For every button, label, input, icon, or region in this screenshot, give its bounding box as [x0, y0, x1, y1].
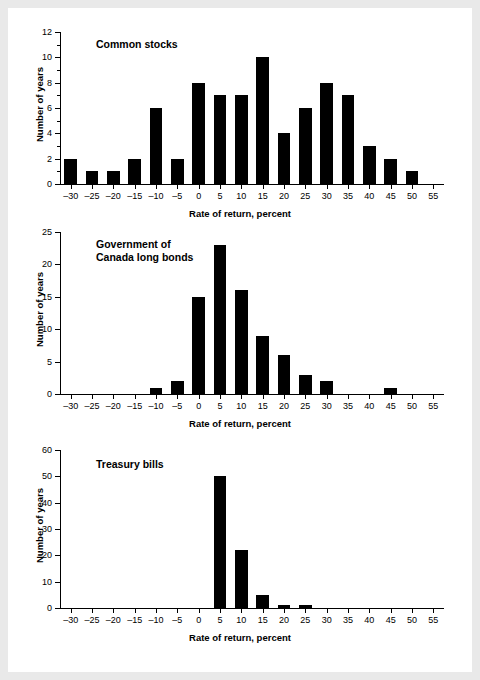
histogram-bar — [214, 95, 226, 184]
x-axis-tick — [241, 185, 242, 189]
x-axis-tick — [135, 185, 136, 189]
histogram-bar — [384, 388, 396, 394]
y-axis-minor-tick — [57, 45, 60, 46]
y-axis-minor-tick — [57, 70, 60, 71]
y-axis-tick-label: 10 — [28, 53, 52, 62]
y-axis-tick — [55, 297, 60, 298]
y-axis-tick — [55, 57, 60, 58]
histogram-bar — [320, 381, 332, 394]
histogram-bar — [214, 476, 226, 608]
x-axis-tick — [199, 185, 200, 189]
x-axis-tick — [327, 185, 328, 189]
histogram-bar — [235, 550, 247, 608]
y-axis-tick — [55, 362, 60, 363]
plot-area-common-stocks: –30–25–20–15–10–505101520253035404550550… — [60, 32, 444, 184]
histogram-bar — [384, 159, 396, 184]
y-axis-tick — [55, 184, 60, 185]
histogram-bar — [171, 159, 183, 184]
x-axis-tick — [177, 395, 178, 399]
y-axis-tick-label: 12 — [28, 28, 52, 37]
x-axis-tick — [412, 609, 413, 613]
y-axis-title: Number of years — [34, 67, 45, 142]
x-axis-tick — [113, 609, 114, 613]
x-axis-title: Rate of return, percent — [8, 632, 472, 643]
plot-area-treasury-bills: –30–25–20–15–10–505101520253035404550550… — [60, 450, 444, 608]
y-axis-minor-tick — [57, 171, 60, 172]
x-axis-tick — [92, 609, 93, 613]
x-axis-tick — [220, 185, 221, 189]
histogram-bar — [214, 245, 226, 394]
histogram-bar — [235, 95, 247, 184]
x-axis-tick — [369, 185, 370, 189]
x-axis-tick — [113, 395, 114, 399]
x-axis-tick — [241, 395, 242, 399]
y-axis-tick-label: 0 — [28, 390, 52, 399]
x-axis-tick — [348, 185, 349, 189]
y-axis-tick — [55, 476, 60, 477]
x-axis-tick — [199, 395, 200, 399]
x-axis-tick — [135, 609, 136, 613]
y-axis-tick — [55, 608, 60, 609]
histogram-bar — [107, 171, 119, 184]
chart-title-treasury-bills: Treasury bills — [96, 458, 164, 471]
histogram-bar — [150, 108, 162, 184]
x-axis-tick — [284, 185, 285, 189]
x-axis-line — [60, 394, 444, 395]
x-axis-tick — [305, 185, 306, 189]
x-axis-tick — [199, 609, 200, 613]
x-axis-tick — [263, 185, 264, 189]
x-axis-tick — [433, 395, 434, 399]
x-axis-tick-label: 55 — [418, 191, 448, 201]
y-axis-title: Number of years — [34, 488, 45, 563]
y-axis-tick — [55, 83, 60, 84]
histogram-bar — [342, 95, 354, 184]
chart-panel-treasury-bills: –30–25–20–15–10–505101520253035404550550… — [8, 432, 472, 656]
histogram-bar — [150, 388, 162, 394]
x-axis-tick-label: 55 — [418, 615, 448, 625]
y-axis-line — [60, 232, 61, 395]
y-axis-tick — [55, 32, 60, 33]
chart-panel-common-stocks: –30–25–20–15–10–505101520253035404550550… — [8, 14, 472, 232]
x-axis-tick — [71, 609, 72, 613]
x-axis-title: Rate of return, percent — [8, 208, 472, 219]
x-axis-tick — [348, 609, 349, 613]
y-axis-tick-label: 50 — [28, 472, 52, 481]
x-axis-tick — [305, 395, 306, 399]
y-axis-tick-label: 25 — [28, 228, 52, 237]
y-axis-tick — [55, 555, 60, 556]
x-axis-tick — [220, 395, 221, 399]
x-axis-tick — [113, 185, 114, 189]
x-axis-tick-label: 55 — [418, 401, 448, 411]
chart-title-common-stocks: Common stocks — [96, 38, 178, 51]
histogram-bar — [299, 375, 311, 394]
x-axis-tick — [156, 185, 157, 189]
y-axis-tick — [55, 159, 60, 160]
x-axis-tick — [391, 395, 392, 399]
x-axis-tick — [284, 609, 285, 613]
histogram-bar — [278, 605, 290, 608]
x-axis-tick — [412, 395, 413, 399]
x-axis-tick — [284, 395, 285, 399]
histogram-bar — [256, 595, 268, 608]
histogram-bar — [299, 605, 311, 608]
y-axis-tick — [55, 503, 60, 504]
y-axis-title: Number of years — [34, 272, 45, 347]
y-axis-minor-tick — [57, 146, 60, 147]
y-axis-tick-label: 20 — [28, 260, 52, 269]
histogram-bar — [406, 171, 418, 184]
histogram-bar — [128, 159, 140, 184]
histogram-bar — [64, 159, 76, 184]
y-axis-tick — [55, 108, 60, 109]
histogram-bar — [192, 297, 204, 394]
histogram-bar — [278, 355, 290, 394]
y-axis-tick-label: 60 — [28, 446, 52, 455]
x-axis-tick — [71, 185, 72, 189]
x-axis-tick — [156, 609, 157, 613]
x-axis-tick — [177, 185, 178, 189]
y-axis-tick-label: 0 — [28, 180, 52, 189]
histogram-bar — [86, 171, 98, 184]
x-axis-tick — [327, 395, 328, 399]
x-axis-tick — [391, 609, 392, 613]
x-axis-tick — [348, 395, 349, 399]
y-axis-tick — [55, 582, 60, 583]
